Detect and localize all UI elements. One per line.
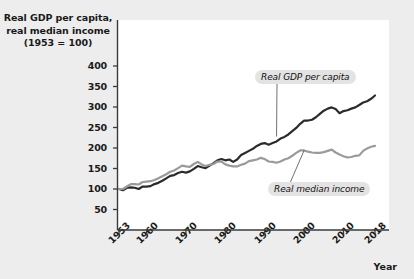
series-label-1: Real median income (268, 182, 370, 196)
chart-svg (0, 0, 414, 279)
series-layer (119, 96, 375, 191)
x-axis-title: Year (373, 261, 397, 272)
series-line-0 (119, 96, 375, 191)
series-label-0: Real GDP per capita (255, 70, 356, 84)
figure-container: Real GDP per capita, real median income … (0, 0, 414, 279)
axis-lines (118, 20, 390, 230)
tick-marks (113, 66, 375, 235)
